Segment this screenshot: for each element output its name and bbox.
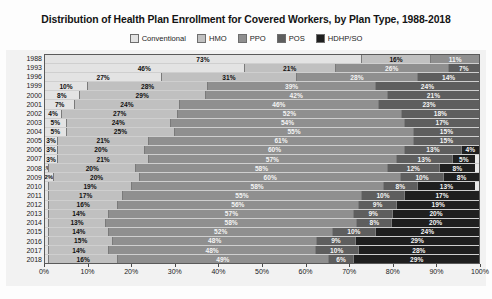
bar-segment[interactable]: 10% bbox=[362, 191, 405, 199]
bar-segment[interactable]: 19% bbox=[49, 182, 131, 190]
bar-segment[interactable]: 20% bbox=[58, 146, 145, 154]
bar-row[interactable]: 7%24%46%23% bbox=[45, 100, 479, 109]
bar-segment[interactable]: 73% bbox=[45, 55, 362, 63]
bar-row[interactable]: 4%27%52%18% bbox=[45, 110, 479, 119]
bar-row[interactable]: 5%25%55%15% bbox=[45, 128, 479, 137]
bar-segment[interactable]: 13% bbox=[418, 182, 474, 190]
bar-segment[interactable]: 3% bbox=[45, 146, 58, 154]
bar-segment[interactable]: 20% bbox=[393, 210, 479, 218]
bar-segment[interactable]: 31% bbox=[162, 73, 297, 81]
bar-segment[interactable]: 56% bbox=[118, 201, 359, 209]
legend-item-hdhp-so[interactable]: HDHP/SO bbox=[316, 34, 363, 43]
bar-row[interactable]: 3%21%61%15% bbox=[45, 137, 479, 146]
bar-segment[interactable]: 5% bbox=[45, 128, 67, 136]
bar-segment[interactable]: 4% bbox=[462, 146, 479, 154]
bar-segment[interactable]: 55% bbox=[123, 191, 362, 199]
bar-segment[interactable]: 29% bbox=[80, 91, 206, 99]
bar-segment[interactable]: 55% bbox=[175, 128, 414, 136]
bar-segment[interactable]: 15% bbox=[49, 237, 113, 245]
bar-row[interactable]: 14%52%10%24% bbox=[45, 228, 479, 237]
bar-segment[interactable]: 49% bbox=[118, 255, 329, 263]
bar-row[interactable]: 8%29%42%21% bbox=[45, 91, 479, 100]
bar-row[interactable]: 73%16%11% bbox=[45, 55, 479, 64]
bar-segment[interactable]: 3% bbox=[45, 137, 58, 145]
bar-segment[interactable]: 23% bbox=[379, 100, 479, 108]
bar-segment[interactable]: 24% bbox=[376, 82, 479, 90]
bar-segment[interactable]: 16% bbox=[49, 255, 118, 263]
bar-row[interactable]: 15%48%9%29% bbox=[45, 237, 479, 246]
bar-segment[interactable]: 26% bbox=[336, 64, 449, 72]
bar-segment[interactable]: 21% bbox=[58, 155, 149, 163]
bar-segment[interactable]: 52% bbox=[178, 110, 401, 118]
bar-segment[interactable]: 61% bbox=[149, 137, 414, 145]
bar-segment[interactable]: 8% bbox=[45, 91, 80, 99]
bar-segment[interactable]: 6% bbox=[329, 255, 355, 263]
bar-segment[interactable]: 21% bbox=[388, 91, 479, 99]
bar-segment[interactable]: 39% bbox=[208, 82, 376, 90]
bar-segment[interactable]: 20% bbox=[49, 164, 136, 172]
bar-segment[interactable]: 58% bbox=[132, 182, 384, 190]
bar-segment[interactable]: 5% bbox=[453, 155, 475, 163]
bar-segment[interactable]: 29% bbox=[354, 255, 479, 263]
legend-item-ppo[interactable]: PPO bbox=[238, 34, 266, 43]
bar-segment[interactable]: 24% bbox=[376, 228, 479, 236]
bar-segment[interactable]: 19% bbox=[397, 201, 479, 209]
bar-segment[interactable]: 15% bbox=[414, 128, 479, 136]
bar-segment[interactable]: 14% bbox=[49, 210, 109, 218]
bar-row[interactable]: 10%28%39%24% bbox=[45, 82, 479, 91]
bar-segment[interactable]: 28% bbox=[359, 246, 479, 254]
bar-segment[interactable]: 21% bbox=[58, 137, 149, 145]
bar-segment[interactable]: 52% bbox=[109, 228, 332, 236]
bar-segment[interactable]: 10% bbox=[333, 228, 376, 236]
bar-segment[interactable]: 11% bbox=[431, 55, 479, 63]
bar-row[interactable]: 46%21%26%7% bbox=[45, 64, 479, 73]
bar-row[interactable]: 19%58%8%13% bbox=[45, 182, 479, 191]
bar-segment[interactable]: 20% bbox=[54, 173, 141, 181]
bar-row[interactable]: 17%55%10%17% bbox=[45, 191, 479, 200]
bar-segment[interactable]: 25% bbox=[67, 128, 176, 136]
legend-item-pos[interactable]: POS bbox=[277, 34, 305, 43]
bar-row[interactable]: 1%20%58%12%8% bbox=[45, 164, 479, 173]
bar-segment[interactable]: 48% bbox=[113, 237, 317, 245]
bar-segment[interactable]: 16% bbox=[49, 201, 118, 209]
bar-segment[interactable]: 13% bbox=[397, 155, 453, 163]
bar-segment[interactable]: 54% bbox=[171, 119, 405, 127]
bar-segment[interactable]: 28% bbox=[297, 73, 419, 81]
bar-segment[interactable]: 4% bbox=[45, 110, 62, 118]
bar-segment[interactable]: 10% bbox=[401, 173, 444, 181]
bar-segment[interactable]: 60% bbox=[140, 173, 400, 181]
bar-row[interactable]: 2%20%60%10%8% bbox=[45, 173, 479, 182]
bar-segment[interactable]: 9% bbox=[317, 237, 355, 245]
bar-segment[interactable]: 27% bbox=[45, 73, 162, 81]
bar-segment[interactable]: 24% bbox=[75, 100, 179, 108]
bar-segment[interactable]: 10% bbox=[316, 246, 359, 254]
bar-segment[interactable]: 7% bbox=[45, 100, 75, 108]
bar-row[interactable]: 5%24%54%17% bbox=[45, 119, 479, 128]
bar-segment[interactable]: 8% bbox=[440, 164, 475, 172]
bar-segment[interactable]: 14% bbox=[418, 73, 479, 81]
legend-item-hmo[interactable]: HMO bbox=[197, 34, 227, 43]
bar-segment[interactable]: 8% bbox=[357, 219, 392, 227]
bar-segment[interactable]: 2% bbox=[45, 173, 54, 181]
bar-row[interactable]: 16%49%6%29% bbox=[45, 255, 479, 263]
bar-segment[interactable]: 8% bbox=[444, 173, 479, 181]
bar-segment[interactable]: 28% bbox=[88, 82, 208, 90]
bar-row[interactable]: 13%58%8%20% bbox=[45, 219, 479, 228]
bar-row[interactable]: 3%20%60%13%4% bbox=[45, 146, 479, 155]
bar-segment[interactable]: 17% bbox=[49, 191, 123, 199]
bar-segment[interactable]: 9% bbox=[359, 201, 398, 209]
bar-segment[interactable]: 10% bbox=[45, 82, 88, 90]
bar-segment[interactable]: 27% bbox=[62, 110, 178, 118]
bar-segment[interactable]: 13% bbox=[405, 146, 461, 154]
bar-segment[interactable]: 5% bbox=[45, 119, 67, 127]
bar-segment[interactable]: 46% bbox=[180, 100, 380, 108]
bar-segment[interactable]: 17% bbox=[405, 119, 479, 127]
bar-segment[interactable]: 29% bbox=[356, 237, 479, 245]
legend-item-conventional[interactable]: Conventional bbox=[130, 34, 186, 43]
bar-segment[interactable]: 18% bbox=[402, 110, 479, 118]
bar-segment[interactable]: 7% bbox=[449, 64, 479, 72]
bar-segment[interactable]: 57% bbox=[109, 210, 354, 218]
bar-segment[interactable]: 13% bbox=[49, 219, 105, 227]
bar-segment[interactable]: 17% bbox=[405, 191, 479, 199]
bar-segment[interactable]: 9% bbox=[354, 210, 393, 218]
